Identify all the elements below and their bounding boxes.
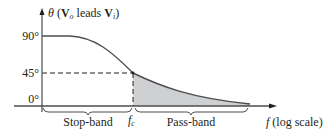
y-title-close: ) bbox=[115, 6, 119, 20]
y-axis-title: θ (Vo leads Vi) bbox=[48, 6, 119, 21]
vo-symbol: V bbox=[61, 6, 70, 20]
fc-subscript: c bbox=[131, 119, 135, 128]
vi-symbol: V bbox=[104, 6, 113, 20]
pass-band-brace bbox=[135, 108, 248, 115]
fc-label: fc bbox=[128, 113, 135, 128]
x-title-text: (log scale) bbox=[269, 115, 322, 129]
tick-0-label: 0° bbox=[28, 92, 39, 106]
x-axis-arrow-icon bbox=[269, 104, 277, 109]
phase-response-diagram: 90° 45° 0° θ (Vo leads Vi) f (log scale)… bbox=[0, 0, 334, 136]
y-axis-arrow-icon bbox=[40, 8, 45, 15]
stop-band-label: Stop-band bbox=[63, 115, 112, 129]
y-title-leads: leads bbox=[74, 6, 105, 20]
fc-point bbox=[132, 72, 135, 75]
tick-90-label: 90° bbox=[22, 29, 39, 43]
y-title-open: ( bbox=[54, 6, 61, 20]
tick-45-label: 45° bbox=[22, 66, 39, 80]
stop-band-brace bbox=[43, 108, 132, 115]
pass-band-shaded-area bbox=[133, 73, 250, 106]
x-axis-title: f (log scale) bbox=[266, 115, 323, 129]
pass-band-label: Pass-band bbox=[167, 115, 216, 129]
